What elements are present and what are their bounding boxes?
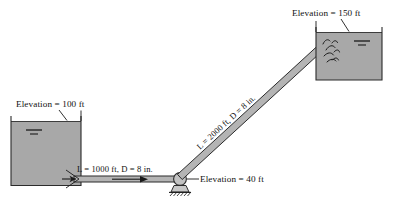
- pump-foundation: [171, 186, 189, 193]
- pump-elevation-label: Elevation = 40 ft: [200, 174, 264, 184]
- suction-pipe-label: L = 1000 ft, D = 8 in.: [77, 164, 153, 174]
- lower-reservoir-water: [11, 122, 81, 186]
- lower-reservoir-elevation-label: Elevation = 100 ft: [16, 99, 85, 109]
- upper-reservoir-elevation-label: Elevation = 150 ft: [292, 8, 361, 18]
- lower-reservoir: [11, 116, 81, 186]
- upper-reservoir: [316, 27, 382, 80]
- pump-pipeline-diagram: Elevation = 100 ft L = 1000 ft, D = 8 in…: [0, 0, 398, 212]
